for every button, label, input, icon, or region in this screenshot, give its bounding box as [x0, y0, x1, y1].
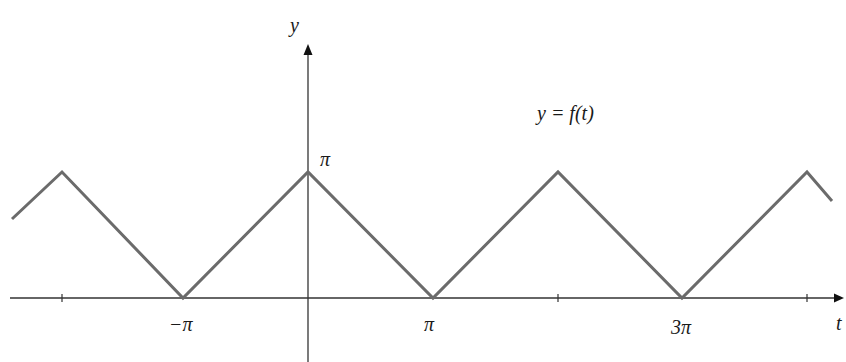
triangle-wave-graph: y t y = f(t) π −π π 3π	[0, 0, 846, 362]
t-axis-arrow-icon	[834, 294, 844, 303]
pi-y-tick-label: π	[320, 148, 331, 170]
neg-pi-tick-label: −π	[169, 313, 193, 335]
three-pi-tick-label: 3π	[670, 316, 692, 338]
function-label: y = f(t)	[535, 102, 594, 125]
y-axis-arrow-icon	[304, 44, 313, 55]
pi-tick-label: π	[424, 313, 435, 335]
triangle-wave-curve	[12, 172, 832, 298]
t-axis-label: t	[836, 312, 842, 334]
y-axis-label: y	[288, 14, 299, 37]
